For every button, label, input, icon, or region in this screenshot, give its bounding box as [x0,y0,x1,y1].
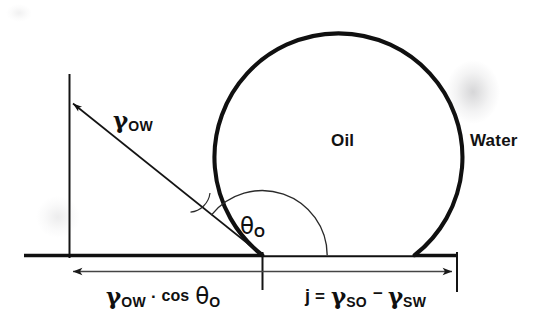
projection-theta-subscript: O [209,294,220,310]
gamma-symbol: γ [113,106,128,133]
gamma-ow-label: γOW [113,107,153,130]
theta-o-label: θO [240,214,265,237]
water-phase-label: Water [470,132,518,149]
theta-o-subscript: O [254,224,265,240]
theta-symbol: θ [240,213,254,239]
projection-gamma-symbol: γ [106,282,121,309]
adhesion-equals-sign: = [315,287,325,306]
projection-theta-symbol: θ [195,283,209,309]
diagram-canvas [0,0,553,322]
projection-gamma-subscript: OW [121,294,146,310]
adhesion-gamma-sw-subscript: SW [403,294,426,310]
adhesion-tension-label: j=γSO−γSW [305,283,426,306]
projection-dot-operator: · [151,287,157,306]
adhesion-j-symbol: j [305,286,310,306]
horizontal-projection-label: γOW·cosθO [106,283,220,307]
adhesion-gamma-so-symbol: γ [331,282,346,309]
contact-angle-diagram: γOW θO Oil Water γOW·cosθO j=γSO−γSW [0,0,553,322]
oil-phase-label: Oil [331,132,354,149]
projection-cos-text: cos [162,287,190,304]
adhesion-gamma-sw-symbol: γ [388,282,403,309]
tangent-angle-arc [191,193,211,212]
gamma-ow-subscript: OW [128,118,153,134]
adhesion-gamma-so-subscript: SO [346,294,367,310]
adhesion-minus-sign: − [373,284,383,303]
